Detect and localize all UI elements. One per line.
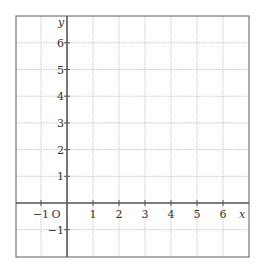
coordinate-plane: −1123456−1123456Oxy <box>0 0 263 272</box>
y-tick-label: 2 <box>57 144 64 157</box>
x-tick-label: −1 <box>33 208 49 221</box>
y-tick-label: 3 <box>57 117 64 130</box>
y-tick-label: 5 <box>57 64 64 77</box>
y-tick-label: 6 <box>57 37 64 50</box>
y-tick-label: 4 <box>57 90 64 103</box>
y-tick-label: −1 <box>48 224 64 237</box>
x-tick-label: 6 <box>220 208 227 221</box>
x-tick-label: 3 <box>142 208 149 221</box>
x-axis-label: x <box>239 208 246 221</box>
x-tick-label: 5 <box>194 208 201 221</box>
y-tick-label: 1 <box>57 170 64 183</box>
x-tick-label: 1 <box>90 208 97 221</box>
x-tick-label: 2 <box>116 208 123 221</box>
x-tick-label: 4 <box>168 208 175 221</box>
y-axis-label: y <box>57 16 65 29</box>
origin-label: O <box>51 208 60 221</box>
